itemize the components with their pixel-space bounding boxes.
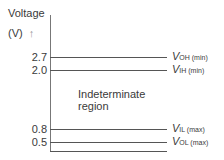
- indeterminate-region-label: Indeterminate region: [78, 88, 145, 112]
- baseline: [50, 151, 167, 152]
- axis-title-voltage: Voltage: [8, 7, 45, 19]
- subscript: OL (max): [179, 139, 208, 146]
- tick-label-2-0: 2.0: [17, 64, 47, 76]
- region-label-line2: region: [78, 100, 145, 112]
- subscript: IH (min): [179, 67, 204, 74]
- label-vol-max: VOL (max): [172, 135, 208, 147]
- label-voh-min: VOH (min): [172, 50, 208, 62]
- tick-label-0-5: 0.5: [17, 136, 47, 148]
- label-vih-min: VIH (min): [172, 63, 204, 75]
- axis-unit: (V): [8, 27, 23, 39]
- label-vil-max: VIL (max): [172, 122, 205, 134]
- subscript: OH (min): [179, 54, 207, 61]
- level-line-vih: [50, 70, 167, 71]
- tick-label-0-8: 0.8: [17, 123, 47, 135]
- axis-title-unit: (V) ↑: [8, 27, 34, 39]
- region-label-line1: Indeterminate: [78, 88, 145, 100]
- up-arrow-icon: ↑: [29, 27, 35, 39]
- vertical-axis: [50, 15, 51, 152]
- subscript: IL (max): [179, 126, 204, 133]
- level-line-vil: [50, 129, 167, 130]
- level-line-vol: [50, 142, 167, 143]
- level-line-voh: [50, 57, 167, 58]
- tick-label-2-7: 2.7: [17, 51, 47, 63]
